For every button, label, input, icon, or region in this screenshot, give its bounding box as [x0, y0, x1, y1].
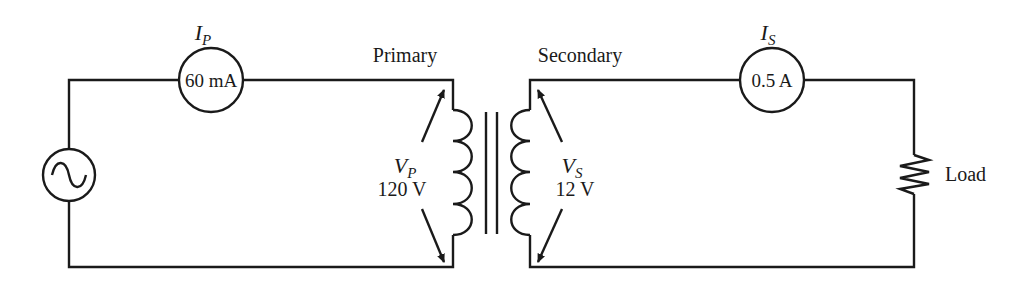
- primary-voltage-arrow-down: [422, 209, 444, 262]
- secondary-wire-top-right: [804, 80, 914, 155]
- secondary-voltage-arrow-up: [538, 90, 562, 142]
- primary-voltage-arrow-up: [422, 90, 444, 142]
- transformer-circuit-diagram: 60 mA IP Primary VP 120 V 0.5 A IS Secon…: [0, 0, 1033, 286]
- primary-wire-top-left: [69, 80, 179, 150]
- secondary-circuit: 0.5 A IS Secondary VS 12 V Load: [511, 20, 986, 267]
- primary-voltage-label: VP: [394, 153, 417, 181]
- secondary-wire-top-left: [530, 80, 740, 110]
- secondary-wire-bottom: [530, 194, 914, 267]
- ac-source-icon: [43, 149, 95, 201]
- secondary-voltage-arrow-down: [538, 209, 562, 262]
- secondary-voltage-label: VS: [562, 153, 583, 181]
- primary-circuit: 60 mA IP Primary VP 120 V: [43, 20, 472, 267]
- secondary-label: Secondary: [538, 44, 622, 67]
- primary-wire-bottom: [69, 200, 453, 267]
- primary-coil: [453, 110, 472, 235]
- primary-current-value: 60 mA: [185, 70, 238, 91]
- secondary-ammeter: 0.5 A: [740, 48, 804, 112]
- primary-voltage-value: 120 V: [377, 178, 427, 200]
- load-resistor-icon: [900, 155, 929, 194]
- primary-ammeter: 60 mA: [179, 48, 243, 112]
- primary-label: Primary: [373, 44, 437, 67]
- primary-wire-top-right: [243, 80, 453, 110]
- transformer-core: [486, 112, 497, 234]
- secondary-coil: [511, 110, 530, 235]
- secondary-current-label: IS: [760, 20, 776, 48]
- secondary-voltage-value: 12 V: [555, 178, 595, 200]
- secondary-current-value: 0.5 A: [751, 70, 792, 91]
- load-label: Load: [945, 163, 986, 185]
- primary-current-label: IP: [194, 20, 212, 48]
